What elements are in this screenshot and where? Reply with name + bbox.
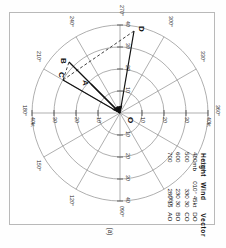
cell-vector: BO [174, 212, 182, 238]
table-row: 400mb 010° 45kt DO [191, 152, 199, 238]
bearing-label-270: 270° [119, 5, 124, 16]
cell-height: 500 [182, 152, 190, 181]
tick-top-30: 30 [184, 117, 189, 123]
bearing-label-120: 120° [69, 195, 74, 206]
figure-page: 360° 030° 060° 090° 120° 150° 180° 210° … [0, 0, 226, 248]
table-header-vector: Vector [199, 212, 208, 238]
tick-left-30: 30 [125, 43, 130, 49]
cell-height: 700 [166, 152, 174, 181]
tick-top-40kt: 40kt [206, 117, 211, 127]
point-label-O: O [126, 117, 134, 123]
wind-vectors [63, 31, 134, 113]
table-header-row: Height Wind Vector [199, 152, 208, 238]
tick-bottom-30: 30 [52, 117, 57, 123]
figure-rotation-wrapper: 360° 030° 060° 090° 120° 150° 180° 210° … [0, 0, 226, 248]
bearing-label-300: 300° [168, 16, 173, 27]
tick-right-30: 30 [125, 175, 130, 181]
point-label-A: A [81, 80, 89, 86]
tick-top-20: 20 [162, 117, 167, 123]
table-row: 500 330 30 CO [182, 152, 190, 238]
bearing-label-150: 150° [36, 160, 41, 171]
bearing-label-360: 360° [215, 105, 220, 116]
cell-wind: 330 30 [182, 181, 190, 212]
tick-left-40: 40 [125, 21, 130, 27]
table-row: 600 230 30 BO [174, 152, 182, 238]
bearing-label-330: 330° [200, 51, 205, 62]
tick-right-10: 10 [125, 131, 130, 137]
table-header-wind: Wind [199, 181, 208, 212]
bearing-label-090: 090° [119, 206, 124, 217]
cell-wind: 230 30 [174, 181, 182, 212]
tick-right-20: 20 [125, 153, 130, 159]
cell-vector: CO [182, 212, 190, 238]
table-row: 700 280 15 AO [166, 152, 174, 238]
cell-height: 600 [174, 152, 182, 181]
tick-bottom-40kt: 40kt [30, 117, 35, 127]
cell-vector: AO [166, 212, 174, 238]
point-label-B: B [59, 58, 67, 64]
point-label-D: D [137, 26, 145, 32]
cell-wind: 010° 45kt [191, 181, 199, 212]
cell-wind: 280 15 [166, 181, 174, 212]
figure-caption: (a) [107, 228, 114, 236]
tick-left-10: 10 [125, 87, 130, 93]
wind-data-table: Height Wind Vector 400mb 010° 45kt DO 50… [166, 152, 208, 238]
bearing-label-210: 210° [36, 51, 41, 62]
tick-top-10: 10 [140, 117, 145, 123]
bearing-label-240: 240° [69, 16, 74, 27]
point-label-C: C [57, 72, 65, 78]
tick-left-20: 20 [125, 65, 130, 71]
cell-vector: DO [191, 212, 199, 238]
bearing-label-180: 180° [22, 105, 27, 116]
polar-chart-canvas: 360° 030° 060° 090° 120° 150° 180° 210° … [0, 0, 226, 248]
tick-right-40: 40 [125, 197, 130, 203]
table-header-height: Height [199, 152, 208, 181]
tick-bottom-10: 10 [96, 117, 101, 123]
tick-bottom-20: 20 [74, 117, 79, 123]
cell-height: 400mb [191, 152, 199, 181]
